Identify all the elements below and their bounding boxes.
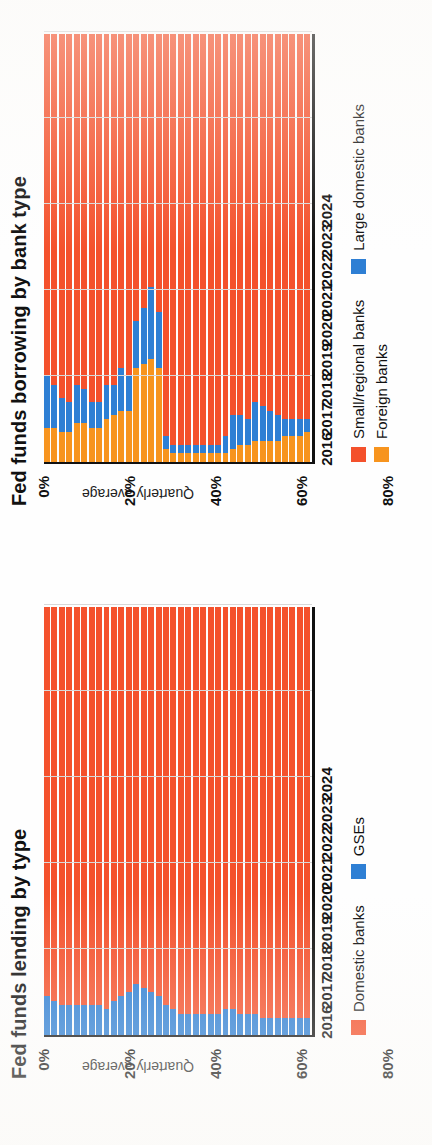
bar-segment <box>44 376 50 427</box>
bar-row <box>193 34 199 462</box>
gridline <box>44 948 312 949</box>
bar-segment <box>200 445 206 454</box>
bar-row <box>185 607 191 1035</box>
bar-segment <box>104 419 110 462</box>
borrowing-panel-slot: Fed funds borrowing by bank type Quarter… <box>0 0 432 572</box>
bar-segment <box>223 436 229 453</box>
bar-segment <box>163 607 169 1005</box>
bar-segment <box>267 441 273 462</box>
bar-segment <box>223 1009 229 1035</box>
bar-segment <box>193 453 199 462</box>
bar-segment <box>275 441 281 462</box>
legend-item[interactable]: Small/regional banks <box>350 300 367 462</box>
bar-segment <box>200 607 206 1014</box>
bar-segment <box>126 411 132 462</box>
gridline <box>44 117 312 118</box>
bar-segment <box>51 607 57 1001</box>
bar-segment <box>81 607 87 1005</box>
bar-segment <box>215 607 221 1014</box>
bar-row <box>260 607 266 1035</box>
bar-segment <box>275 607 281 1018</box>
gridline <box>44 31 312 32</box>
bar-row <box>237 34 243 462</box>
bar-row <box>156 34 162 462</box>
bar-row <box>96 607 102 1035</box>
bar-row <box>208 34 214 462</box>
bar-row <box>289 607 295 1035</box>
bar-segment <box>215 453 221 462</box>
bar-segment <box>126 34 132 376</box>
bar-segment <box>66 34 72 402</box>
legend-item[interactable]: Domestic banks <box>350 905 367 1035</box>
bar-segment <box>275 34 281 415</box>
bar-segment <box>185 453 191 462</box>
bar-row <box>74 607 80 1035</box>
bar-segment <box>111 607 117 1001</box>
bar-row <box>304 607 310 1035</box>
bar-segment <box>200 34 206 445</box>
bar-segment <box>200 453 206 462</box>
y-axis-tick-label: 80% <box>379 476 396 530</box>
bar-segment <box>282 1018 288 1035</box>
fed-funds-borrowing-chart: Fed funds borrowing by bank type Quarter… <box>0 0 420 560</box>
bar-segment <box>141 308 147 364</box>
legend-item[interactable]: GSEs <box>350 817 367 879</box>
x-axis-tick-label: 2024 <box>318 764 335 804</box>
bar-segment <box>237 34 243 415</box>
bar-segment <box>148 34 154 287</box>
bar-segment <box>208 445 214 454</box>
bar-row <box>215 34 221 462</box>
bar-segment <box>89 607 95 1005</box>
bar-segment <box>156 368 162 462</box>
bar-segment <box>74 607 80 1005</box>
bar-row <box>260 34 266 462</box>
bar-row <box>133 34 139 462</box>
bar-row <box>51 607 57 1035</box>
bar-segment <box>118 996 124 1035</box>
bar-segment <box>111 1001 117 1035</box>
bar-segment <box>282 34 288 419</box>
bar-segment <box>118 607 124 996</box>
bar-segment <box>237 445 243 462</box>
y-axis-tick-label: 80% <box>379 1049 396 1103</box>
bar-segment <box>118 34 124 368</box>
bar-segment <box>59 398 65 432</box>
bar-segment <box>193 1014 199 1035</box>
bar-row <box>282 607 288 1035</box>
bar-row <box>237 607 243 1035</box>
bar-segment <box>245 607 251 1014</box>
bar-segment <box>237 607 243 1014</box>
bar-segment <box>111 415 117 462</box>
bar-segment <box>178 607 184 1014</box>
bar-row <box>223 34 229 462</box>
bar-segment <box>230 449 236 462</box>
bar-segment <box>118 411 124 462</box>
bar-segment <box>81 423 87 462</box>
bar-segment <box>185 445 191 454</box>
bar-segment <box>81 1005 87 1035</box>
bar-row <box>252 34 258 462</box>
page-title-lending: Fed funds lending by type <box>8 829 31 1079</box>
bar-row <box>200 34 206 462</box>
bar-segment <box>44 607 50 996</box>
bar-row <box>74 34 80 462</box>
bar-segment <box>44 996 50 1035</box>
bar-segment <box>133 607 139 984</box>
bar-segment <box>59 1005 65 1035</box>
bar-segment <box>126 376 132 410</box>
bar-segment <box>289 607 295 1018</box>
bar-segment <box>96 34 102 402</box>
legend-item[interactable]: Foreign banks <box>373 344 390 462</box>
bar-segment <box>282 607 288 1018</box>
bar-segment <box>81 389 87 423</box>
bar-row <box>66 34 72 462</box>
legend-label: GSEs <box>350 817 367 856</box>
bar-row <box>81 607 87 1035</box>
bar-row <box>282 34 288 462</box>
bar-row <box>185 34 191 462</box>
bar-segment <box>252 402 258 441</box>
bar-segment <box>66 402 72 432</box>
legend-item[interactable]: Large domestic banks <box>350 104 367 274</box>
bar-row <box>126 607 132 1035</box>
bar-segment <box>260 406 266 440</box>
